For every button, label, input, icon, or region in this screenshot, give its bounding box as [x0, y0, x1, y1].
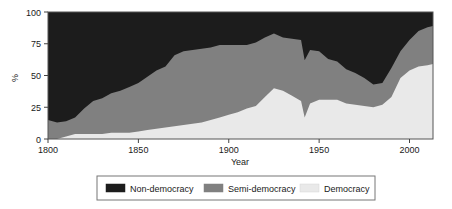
x-tick-label: 2000 — [399, 145, 419, 155]
y-tick-label: 0 — [36, 135, 41, 145]
legend-items: Non-democracySemi-democracyDemocracy — [106, 184, 370, 194]
legend-swatch — [204, 184, 223, 192]
legend-label: Democracy — [324, 184, 370, 194]
y-tick-label: 50 — [31, 71, 41, 81]
x-tick-label: 1900 — [219, 145, 239, 155]
x-tick-label: 1850 — [128, 145, 148, 155]
legend-label: Semi-democracy — [228, 184, 296, 194]
plot-areas — [48, 12, 433, 141]
chart-legend: Non-democracySemi-democracyDemocracy — [97, 176, 375, 200]
y-axis-title: % — [10, 74, 20, 82]
x-axis-title: Year — [231, 157, 249, 167]
legend-swatch — [106, 184, 125, 192]
legend-label: Non-democracy — [130, 184, 194, 194]
y-tick-label: 100 — [26, 8, 41, 18]
y-tick-label: 75 — [31, 39, 41, 49]
stacked-area-chart: 0255075100 18001850190019502000 % Year N… — [0, 0, 452, 209]
chart-figure: 0255075100 18001850190019502000 % Year N… — [0, 0, 452, 209]
legend-swatch — [300, 184, 319, 192]
x-tick-label: 1950 — [309, 145, 329, 155]
y-tick-label: 25 — [31, 103, 41, 113]
x-tick-label: 1800 — [38, 145, 58, 155]
